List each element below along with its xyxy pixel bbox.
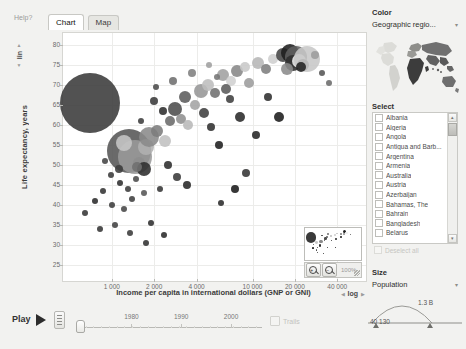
zoom-out-icon[interactable]: −	[322, 263, 337, 277]
play-triangle-icon[interactable]	[36, 314, 46, 326]
bubble[interactable]	[296, 62, 306, 72]
x-scale-label[interactable]: log	[348, 290, 359, 297]
country-checkbox[interactable]	[375, 123, 383, 131]
tab-map[interactable]: Map	[88, 15, 120, 30]
bubble[interactable]	[188, 69, 196, 77]
bubble[interactable]	[153, 84, 159, 90]
list-item[interactable]: Argentina	[373, 151, 457, 161]
bubble[interactable]	[92, 198, 98, 204]
country-checkbox[interactable]	[375, 229, 383, 237]
x-scale-control[interactable]: ◀ log ▶	[341, 288, 366, 299]
help-link[interactable]: Help?	[14, 14, 32, 21]
bubble[interactable]	[148, 220, 154, 226]
list-item[interactable]: Antigua and Barb...	[373, 142, 457, 152]
bubble[interactable]	[129, 196, 135, 202]
bubble[interactable]	[115, 165, 123, 173]
country-checkbox[interactable]	[375, 219, 383, 227]
bubble[interactable]	[109, 202, 115, 208]
bubble[interactable]	[264, 93, 272, 101]
bubble[interactable]	[108, 172, 114, 178]
time-slider-handle[interactable]	[76, 320, 85, 333]
list-item[interactable]: Bahrain	[373, 209, 457, 219]
size-slider[interactable]: 1.3 B 40 130	[368, 293, 458, 329]
bubble[interactable]	[242, 169, 250, 177]
resize-grip-icon[interactable]	[354, 270, 360, 276]
country-checkbox[interactable]	[375, 162, 383, 170]
country-checkbox[interactable]	[375, 143, 383, 151]
bubble[interactable]	[274, 112, 284, 122]
bubble[interactable]	[127, 230, 133, 236]
play-label[interactable]: Play	[12, 314, 31, 324]
list-item[interactable]: Belarus	[373, 228, 457, 238]
country-list-scrollbar[interactable]: ▴ ▾	[447, 113, 457, 243]
country-checkbox[interactable]	[375, 181, 383, 189]
bubble[interactable]	[102, 158, 108, 164]
world-map-thumbnail[interactable]	[370, 33, 460, 99]
bubble[interactable]	[261, 64, 271, 74]
list-item[interactable]: Algeria	[373, 123, 457, 133]
list-item[interactable]: Azerbaijan	[373, 190, 457, 200]
bubble[interactable]	[133, 176, 139, 182]
bubble[interactable]	[141, 190, 147, 196]
country-checkbox[interactable]	[375, 133, 383, 141]
bubble[interactable]	[100, 188, 106, 194]
bubble[interactable]	[221, 84, 231, 94]
list-item[interactable]: Armenia	[373, 161, 457, 171]
bubble[interactable]	[125, 186, 131, 192]
scatter-plot[interactable]: 807570656055504540353025 1 0002 0004 000…	[62, 32, 367, 282]
scroll-down-icon[interactable]: ▾	[448, 234, 457, 243]
country-checkbox[interactable]	[375, 210, 383, 218]
chevron-down-icon[interactable]: ▾	[455, 21, 458, 28]
bubble[interactable]	[281, 63, 293, 75]
bubble[interactable]	[199, 108, 209, 118]
bubble[interactable]	[143, 240, 149, 246]
speed-button[interactable]	[54, 311, 65, 329]
bubble[interactable]	[82, 210, 88, 216]
bubble[interactable]	[207, 123, 215, 131]
bubble[interactable]	[169, 77, 177, 85]
color-dropdown[interactable]: Geographic regio... ▾	[372, 18, 458, 30]
zoom-in-icon[interactable]: +	[306, 263, 321, 277]
bubble[interactable]	[215, 141, 223, 149]
x-scale-left-icon[interactable]: ◀	[341, 291, 345, 297]
bubble[interactable]	[319, 70, 325, 76]
bubble[interactable]	[112, 222, 118, 228]
deselect-all-checkbox[interactable]	[374, 246, 382, 254]
bubble[interactable]	[157, 186, 163, 192]
country-checkbox[interactable]	[375, 171, 383, 179]
bubble[interactable]	[97, 226, 103, 232]
y-scale-up-icon[interactable]: ▲	[12, 42, 26, 48]
country-checkbox[interactable]	[375, 200, 383, 208]
trails-checkbox[interactable]	[270, 316, 280, 326]
bubble[interactable]	[173, 173, 181, 181]
scroll-up-icon[interactable]: ▴	[448, 113, 457, 122]
y-scale-down-icon[interactable]: ▼	[12, 62, 26, 68]
trails-toggle[interactable]: Trails	[270, 316, 300, 326]
list-item[interactable]: Bahamas, The	[373, 199, 457, 209]
bubble[interactable]	[121, 206, 127, 212]
time-slider[interactable]: 198019902000	[72, 313, 262, 333]
country-checkbox[interactable]	[375, 114, 383, 122]
bubble[interactable]	[138, 118, 144, 124]
country-checkbox[interactable]	[375, 191, 383, 199]
bubble[interactable]	[235, 112, 245, 122]
zoom-toolbar[interactable]: + − 100%	[304, 262, 362, 278]
bubble[interactable]	[252, 131, 260, 139]
scroll-thumb[interactable]	[448, 123, 457, 136]
bubble[interactable]	[150, 97, 158, 105]
tab-chart[interactable]: Chart	[48, 14, 84, 30]
x-scale-right-icon[interactable]: ▶	[361, 291, 365, 297]
navigator-inset[interactable]	[304, 227, 362, 261]
country-checkbox[interactable]	[375, 152, 383, 160]
list-item[interactable]: Albania	[373, 113, 457, 123]
bubble[interactable]	[183, 120, 193, 130]
bubble[interactable]	[164, 161, 172, 169]
size-dropdown[interactable]: Population ▾	[372, 278, 458, 290]
bubble[interactable]	[210, 88, 220, 98]
bubble[interactable]	[179, 91, 191, 103]
bubble[interactable]	[226, 95, 234, 103]
y-scale-label[interactable]: lin	[16, 51, 23, 59]
bubble[interactable]	[183, 181, 191, 189]
bubble[interactable]	[60, 73, 120, 133]
list-item[interactable]: Australia	[373, 171, 457, 181]
